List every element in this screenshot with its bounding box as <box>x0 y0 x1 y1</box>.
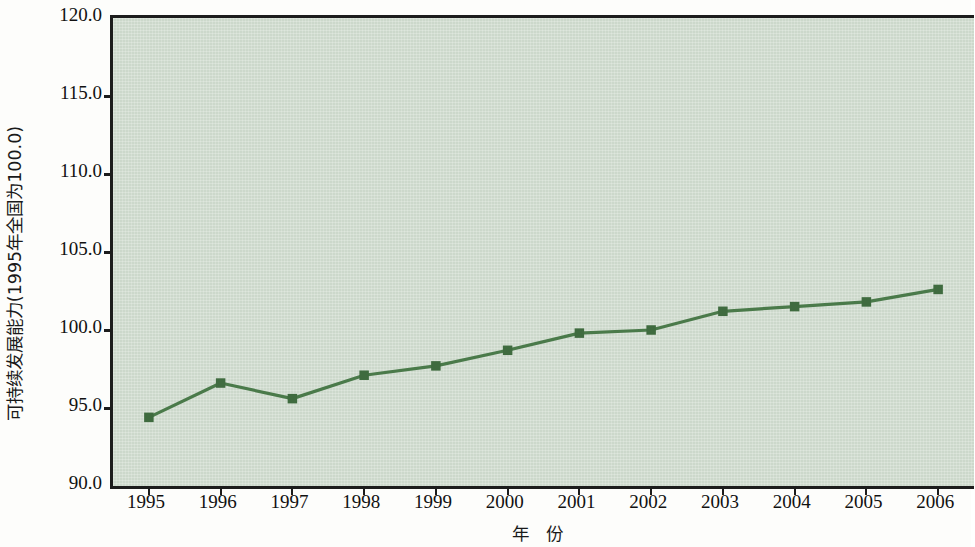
y-tick-label: 115.0 <box>24 83 102 102</box>
x-tick-label: 2000 <box>465 492 545 511</box>
y-tick-label: 120.0 <box>24 5 102 24</box>
x-tick-label: 2004 <box>752 492 832 511</box>
y-tick-label: 100.0 <box>24 317 102 336</box>
series-layer <box>113 18 974 486</box>
x-axis-title: 年 份 <box>110 520 971 545</box>
plot-area <box>110 15 974 489</box>
x-tick-label: 2003 <box>680 492 760 511</box>
data-point-marker <box>862 297 872 307</box>
y-tick-mark <box>104 173 113 176</box>
x-tick-label: 1995 <box>106 492 186 511</box>
data-point-marker <box>288 394 298 404</box>
data-point-marker <box>359 370 369 380</box>
data-point-marker <box>790 302 800 312</box>
data-point-marker <box>933 285 943 295</box>
data-point-marker <box>216 378 226 388</box>
y-axis-tick-labels: 90.095.0100.0105.0110.0115.0120.0 <box>20 0 102 547</box>
x-tick-label: 1997 <box>249 492 329 511</box>
y-tick-label: 95.0 <box>24 395 102 414</box>
x-axis-tick-labels: 1995199619971998199920002001200220032004… <box>110 492 971 520</box>
x-tick-label: 1999 <box>393 492 473 511</box>
x-tick-label: 1996 <box>178 492 258 511</box>
data-point-marker <box>575 328 585 338</box>
data-point-marker <box>718 307 728 317</box>
x-tick-label: 1998 <box>321 492 401 511</box>
y-tick-mark <box>104 407 113 410</box>
y-tick-mark <box>104 251 113 254</box>
series-line <box>149 289 938 417</box>
y-tick-label: 90.0 <box>24 473 102 492</box>
data-point-marker <box>431 361 441 371</box>
y-tick-mark <box>104 95 113 98</box>
y-tick-mark <box>104 329 113 332</box>
x-tick-label: 2005 <box>823 492 903 511</box>
y-tick-label: 105.0 <box>24 239 102 258</box>
data-point-marker <box>503 346 513 356</box>
x-tick-label: 2001 <box>536 492 616 511</box>
data-point-marker <box>144 413 154 423</box>
y-tick-label: 110.0 <box>24 161 102 180</box>
data-point-marker <box>646 325 656 335</box>
x-tick-label: 2006 <box>895 492 975 511</box>
x-tick-label: 2002 <box>608 492 688 511</box>
